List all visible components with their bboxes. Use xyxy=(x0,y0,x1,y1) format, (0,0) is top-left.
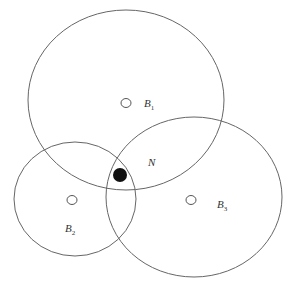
label-b3: B3 xyxy=(217,198,228,213)
label-b1-subscript: 1 xyxy=(151,104,155,112)
node-n-icon xyxy=(113,168,127,182)
label-b2: B2 xyxy=(65,222,76,237)
beacon-b2-icon xyxy=(67,196,77,205)
diagram-canvas: B1 B2 B3 N xyxy=(0,0,290,289)
diagram-svg: B1 B2 B3 N xyxy=(0,0,290,289)
label-n: N xyxy=(147,156,156,168)
label-b2-subscript: 2 xyxy=(72,229,76,237)
beacon-b1-icon xyxy=(121,99,131,108)
label-b1: B1 xyxy=(144,97,155,112)
beacon-b3-icon xyxy=(186,196,196,205)
label-b3-subscript: 3 xyxy=(224,205,228,213)
